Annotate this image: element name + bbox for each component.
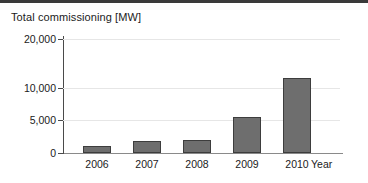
- bar: [83, 146, 111, 153]
- bar: [233, 117, 261, 153]
- y-axis-tick-label: 5,000: [6, 114, 56, 126]
- x-axis-tick-label: 2006: [70, 158, 124, 170]
- y-axis-tick-label-wrap: 0: [0, 147, 56, 159]
- x-axis-tick-label: 2009: [220, 158, 274, 170]
- y-axis-tick: [58, 153, 64, 154]
- x-axis-tick-label: 2008: [170, 158, 224, 170]
- x-axis-line: [63, 153, 343, 154]
- y-axis-tick-label-wrap: 20,000: [0, 33, 56, 45]
- bar: [133, 141, 161, 153]
- y-axis-tick-label-wrap: 10,000: [0, 82, 56, 94]
- y-axis-tick-label: 10,000: [6, 82, 56, 94]
- y-axis-tick-label: 20,000: [6, 33, 56, 45]
- gridline: [63, 39, 340, 40]
- y-axis-tick-label-wrap: 5,000: [0, 114, 56, 126]
- bar: [183, 140, 211, 153]
- y-axis-line: [63, 36, 64, 154]
- x-axis-title: Year: [311, 158, 332, 170]
- bar: [283, 78, 311, 153]
- x-axis-tick-label: 2007: [120, 158, 174, 170]
- chart-figure: Total commissioning [MW] 05,00010,00020,…: [0, 0, 368, 183]
- y-axis-tick-label: 0: [6, 147, 56, 159]
- chart-title: Total commissioning [MW]: [11, 11, 141, 23]
